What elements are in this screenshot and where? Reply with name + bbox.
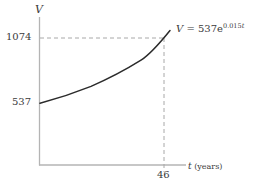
y-tick-label-lower: 537 xyxy=(12,97,31,107)
equation-lhs: V xyxy=(176,23,183,34)
equation-exponent: 0.015t xyxy=(223,22,244,30)
x-axis-variable: t xyxy=(188,161,192,171)
x-axis-label: t (years) xyxy=(188,162,222,171)
curve-equation-label: V = 537e0.015t xyxy=(176,24,244,34)
y-tick-label-upper: 1074 xyxy=(6,32,31,42)
equation-equals: = xyxy=(186,23,194,34)
x-tick-label-46: 46 xyxy=(157,170,170,180)
equation-exponent-number: 0.015 xyxy=(223,22,242,30)
equation-coefficient: 537e xyxy=(198,23,223,34)
equation-exponent-variable: t xyxy=(242,22,245,30)
x-axis-units: (years) xyxy=(194,162,222,171)
y-axis-label: V xyxy=(35,4,43,15)
